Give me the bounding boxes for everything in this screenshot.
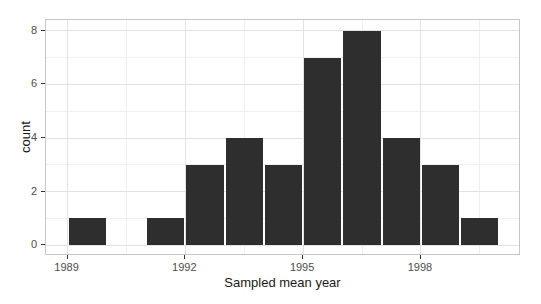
x-tick-mark — [184, 255, 185, 259]
y-tick-label: 6 — [0, 78, 37, 89]
histogram-bar — [265, 165, 302, 245]
y-tick-label: 0 — [0, 239, 37, 250]
histogram-figure: count Sampled mean year 1989199219951998… — [0, 0, 541, 304]
histogram-bar — [461, 218, 498, 245]
histogram-bar — [186, 165, 223, 245]
x-tick-label: 1989 — [54, 262, 78, 273]
y-minor-gridline — [46, 57, 519, 58]
x-tick-mark — [67, 255, 68, 259]
y-tick-label: 2 — [0, 185, 37, 196]
y-tick-mark — [41, 30, 45, 31]
histogram-bar — [69, 218, 106, 245]
y-tick-mark — [41, 137, 45, 138]
y-major-gridline — [46, 138, 519, 139]
y-major-gridline — [46, 84, 519, 85]
histogram-bar — [343, 31, 380, 246]
y-tick-label: 4 — [0, 132, 37, 143]
x-axis-title: Sampled mean year — [224, 276, 340, 289]
x-tick-label: 1992 — [172, 262, 196, 273]
y-tick-label: 8 — [0, 24, 37, 35]
histogram-bar — [147, 218, 184, 245]
histogram-bar — [304, 58, 341, 246]
histogram-bar — [383, 138, 420, 245]
x-tick-label: 1995 — [290, 262, 314, 273]
x-tick-label: 1998 — [408, 262, 432, 273]
y-major-gridline — [46, 30, 519, 31]
y-tick-mark — [41, 191, 45, 192]
x-tick-mark — [420, 255, 421, 259]
x-tick-mark — [302, 255, 303, 259]
y-minor-gridline — [46, 111, 519, 112]
histogram-bar — [422, 165, 459, 245]
y-tick-mark — [41, 244, 45, 245]
y-tick-mark — [41, 83, 45, 84]
histogram-bar — [226, 138, 263, 245]
plot-panel — [45, 19, 520, 255]
